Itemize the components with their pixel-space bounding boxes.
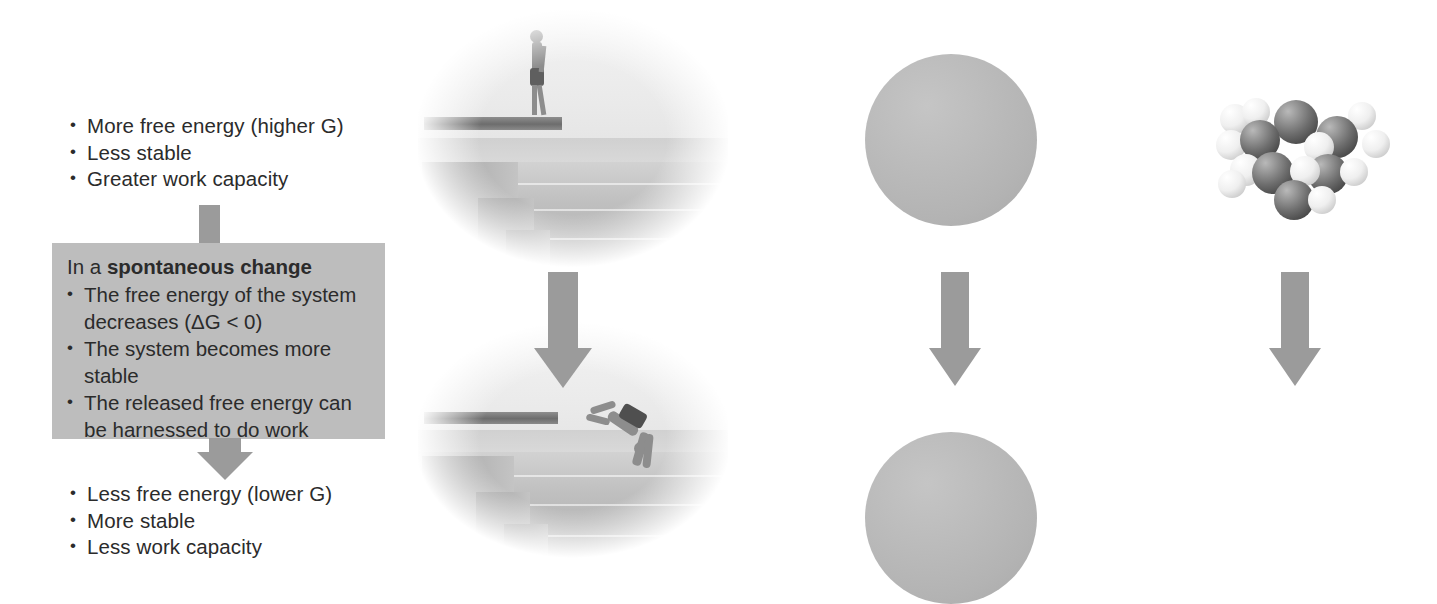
lower-energy-bullet-list: Less free energy (lower G) More stable L… (70, 481, 410, 561)
down-arrow-icon-molecules (1255, 272, 1335, 388)
box-heading: In a spontaneous change (67, 253, 312, 280)
down-arrow-icon-text-column (183, 438, 267, 480)
list-item: Less work capacity (70, 534, 410, 561)
product-molecules-group (1180, 404, 1430, 564)
molecules-illustration-column (1160, 0, 1437, 564)
arrow-head (534, 348, 592, 388)
arrow-head (197, 452, 253, 480)
bullet-text-2: Greater work capacity (87, 167, 288, 190)
diffusion-illustration-column (840, 0, 1110, 564)
diving-platform (424, 412, 558, 424)
arrow-shaft (941, 272, 969, 354)
diving-platform (424, 117, 562, 130)
spontaneous-change-box: In a spontaneous change The free energy … (52, 243, 385, 439)
list-item: The system becomes more stable (67, 335, 377, 389)
bullet-text-0: More free energy (higher G) (87, 114, 344, 137)
bullet-text-2: Less work capacity (87, 535, 262, 558)
diver-top-photo (418, 2, 728, 274)
step (504, 524, 548, 564)
down-arrow-icon-diver (518, 272, 608, 388)
diver-illustration-column (418, 0, 738, 564)
box-item-1-line-1: stable (84, 364, 139, 387)
box-item-0-line-0: The free energy of the system (84, 283, 356, 306)
list-item: The released free energy can be harnesse… (67, 389, 377, 443)
free-energy-text-column: More free energy (higher G) Less stable … (0, 0, 420, 564)
bullet-text-0: Less free energy (lower G) (87, 482, 332, 505)
container-top (865, 54, 1037, 226)
distant-hills (418, 430, 728, 452)
box-heading-prefix: In a (67, 255, 107, 278)
arrow-head (929, 348, 981, 386)
large-molecule (1212, 96, 1392, 216)
step (506, 230, 550, 274)
arrow-head (1269, 348, 1321, 386)
box-heading-bold: spontaneous change (107, 255, 312, 278)
list-item: Greater work capacity (70, 166, 410, 193)
diver-top-scene (418, 2, 728, 274)
box-bullet-list: The free energy of the system decreases … (67, 281, 377, 443)
list-item: More stable (70, 508, 410, 535)
connector-bar (199, 205, 220, 245)
box-item-1-line-0: The system becomes more (84, 337, 331, 360)
container-bottom (865, 432, 1037, 604)
list-item: More free energy (higher G) (70, 113, 410, 140)
box-item-2-line-0: The released free energy can (84, 391, 352, 414)
box-item-0-line-1: decreases (ΔG < 0) (84, 310, 262, 333)
list-item: Less stable (70, 140, 410, 167)
arrow-shaft (548, 272, 578, 354)
bullet-text-1: More stable (87, 509, 195, 532)
list-item: The free energy of the system decreases … (67, 281, 377, 335)
arrow-shaft (1281, 272, 1309, 354)
distant-hills (418, 138, 728, 162)
list-item: Less free energy (lower G) (70, 481, 410, 508)
higher-energy-bullet-list: More free energy (higher G) Less stable … (70, 113, 410, 193)
bullet-text-1: Less stable (87, 141, 192, 164)
down-arrow-icon-diffusion (915, 272, 995, 388)
